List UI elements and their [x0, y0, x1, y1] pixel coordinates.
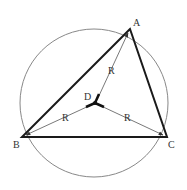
circumcircle-diagram: A B C D R R R [0, 0, 187, 190]
point-d-dot [93, 101, 97, 105]
triangle-abc [22, 29, 167, 137]
radius-db [26, 105, 91, 135]
label-c: C [168, 139, 175, 150]
radius-label-c: R [124, 112, 131, 123]
label-a: A [133, 17, 141, 28]
label-d: D [84, 91, 91, 102]
label-b: B [13, 139, 20, 150]
diagram-canvas: A B C D R R R [0, 0, 187, 190]
radius-label-b: R [62, 112, 69, 123]
radius-dc [99, 105, 163, 135]
radius-label-a: R [108, 65, 115, 76]
